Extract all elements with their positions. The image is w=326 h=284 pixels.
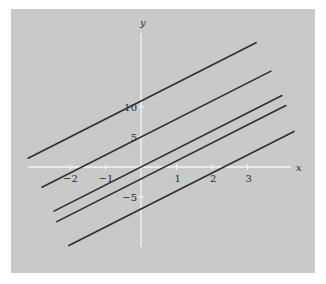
y-tick-label: −5 (122, 192, 137, 203)
y-axis-label: y (139, 17, 146, 28)
chart: −2−1123 105−5 x y y = 3x + 11y = 3x + 5y… (0, 0, 326, 284)
plot-background (11, 9, 315, 273)
x-tick-label: 2 (210, 173, 216, 184)
x-axis-label: x (296, 162, 302, 173)
x-tick-label: 3 (246, 173, 252, 184)
x-tick-label: 1 (175, 173, 181, 184)
